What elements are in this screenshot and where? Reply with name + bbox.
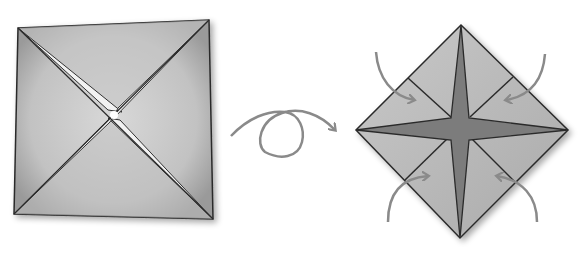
diamond-step [356, 25, 568, 238]
origami-diagram [0, 0, 585, 255]
square-step [14, 20, 213, 219]
turn-over-arrow-icon [231, 111, 335, 157]
